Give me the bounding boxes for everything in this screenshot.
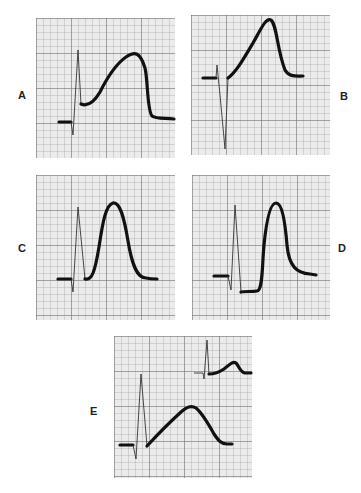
ecg-trace-b: [191, 15, 330, 155]
panel-label-e: E: [90, 405, 97, 417]
panel-label-b: B: [340, 90, 348, 102]
ecg-panel-e: [114, 336, 252, 478]
panel-label-c: C: [18, 242, 26, 254]
ecg-panel-c: [36, 175, 175, 320]
ecg-panel-d: [192, 175, 330, 320]
ecg-trace-c: [36, 175, 175, 320]
ecg-trace-e: [114, 336, 252, 478]
panel-label-d: D: [338, 242, 346, 254]
panel-label-a: A: [18, 89, 26, 101]
ecg-trace-a: [36, 18, 175, 158]
ecg-panel-b: [191, 15, 330, 155]
inset-comparison-complex: [194, 340, 251, 379]
ecg-panel-a: [36, 18, 175, 158]
ecg-trace-d: [192, 175, 330, 320]
